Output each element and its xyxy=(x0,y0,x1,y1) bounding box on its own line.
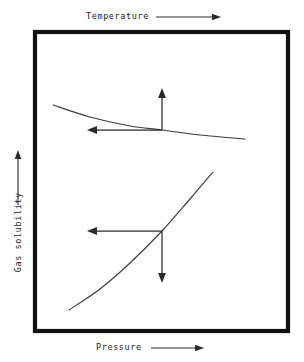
gas-solubility-diagram xyxy=(0,0,304,362)
annotation-temperature-left-arrow xyxy=(87,126,162,134)
bottom-axis-label: Pressure xyxy=(96,343,142,352)
curve-solubility-vs-temperature xyxy=(53,105,245,139)
left-axis-label: Gas solubility xyxy=(14,200,23,272)
top-axis-arrow xyxy=(156,14,221,21)
top-axis-label: Temperature xyxy=(86,12,149,21)
plot-frame xyxy=(35,32,288,331)
diagram-canvas: Temperature Pressure Gas solubility xyxy=(0,0,304,362)
annotation-temperature-up-arrow xyxy=(158,88,166,130)
annotation-pressure-left-arrow xyxy=(87,227,162,235)
curve-solubility-vs-pressure xyxy=(69,172,213,310)
bottom-axis-arrow xyxy=(151,345,204,352)
annotation-pressure-down-arrow xyxy=(158,231,166,283)
